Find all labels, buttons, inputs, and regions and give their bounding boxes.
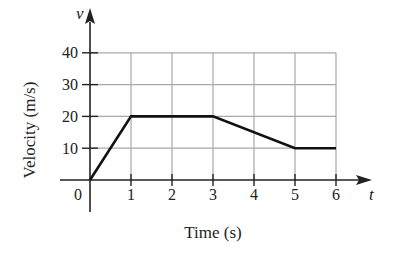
velocity-time-chart: 12345610203040 v t Time (s) Velocity (m/… xyxy=(0,0,400,253)
y-tick-label: 30 xyxy=(62,76,78,93)
x-tick-label: 2 xyxy=(168,186,176,203)
x-tick-label: 3 xyxy=(209,186,217,203)
y-axis-arrow-icon xyxy=(85,8,95,24)
origin-label: 0 xyxy=(74,186,82,203)
x-tick-label: 4 xyxy=(250,186,258,203)
y-tick-label: 10 xyxy=(62,140,78,157)
x-tick-label: 1 xyxy=(127,186,135,203)
tick-labels: 12345610203040 xyxy=(62,44,340,203)
x-tick-label: 6 xyxy=(332,186,340,203)
y-tick-label: 20 xyxy=(62,108,78,125)
axes xyxy=(60,8,372,212)
x-tick-label: 5 xyxy=(291,186,299,203)
y-axis-label: Velocity (m/s) xyxy=(20,82,39,179)
x-axis-symbol: t xyxy=(369,185,375,204)
y-tick-label: 40 xyxy=(62,44,78,61)
x-axis-label: Time (s) xyxy=(184,223,241,242)
y-axis-symbol: v xyxy=(76,4,84,23)
